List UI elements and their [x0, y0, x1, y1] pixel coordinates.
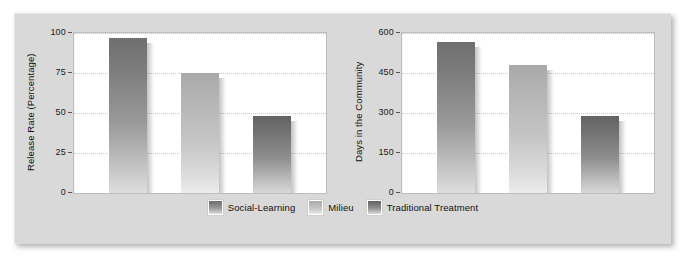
y-axis-tick-label: 450: [354, 67, 394, 77]
y-axis-tick-label: 0: [354, 187, 394, 197]
bar-3: [253, 116, 291, 193]
y-axis-tick-label: 50: [26, 107, 66, 117]
y-axis-tick-mark: [396, 112, 400, 113]
bar-1: [109, 38, 147, 193]
gridline: [74, 33, 326, 34]
y-axis-tick-label: 300: [354, 107, 394, 117]
bar-drop-shadow: [291, 121, 298, 193]
gridline: [402, 33, 654, 34]
bar-2: [509, 65, 547, 193]
y-axis-tick-label: 25: [26, 147, 66, 157]
y-axis-tick-label: 100: [26, 27, 66, 37]
bar-fill: [109, 38, 147, 193]
bar-fill: [581, 116, 619, 193]
y-axis-tick-mark: [68, 32, 72, 33]
plot-area-left: [73, 32, 327, 194]
plot-area-right: [401, 32, 655, 194]
y-axis-tick-label: 600: [354, 27, 394, 37]
y-axis-tick-mark: [68, 112, 72, 113]
bar-3: [581, 116, 619, 193]
bar-fill: [181, 73, 219, 193]
legend-item-1: Social-Learning: [208, 200, 296, 215]
bar-drop-shadow: [147, 43, 154, 193]
legend-label: Social-Learning: [228, 202, 296, 213]
legend-item-3: Traditional Treatment: [367, 200, 479, 215]
legend-swatch: [208, 200, 223, 215]
legend-swatch: [308, 200, 323, 215]
y-axis-tick-label: 0: [26, 187, 66, 197]
y-axis-tick-label: 75: [26, 67, 66, 77]
bar-2: [181, 73, 219, 193]
bar-fill: [437, 42, 475, 193]
bar-fill: [253, 116, 291, 193]
chart-legend: Social-LearningMilieuTraditional Treatme…: [15, 200, 671, 215]
legend-item-2: Milieu: [308, 200, 353, 215]
y-axis-tick-mark: [396, 32, 400, 33]
y-axis-tick-label: 150: [354, 147, 394, 157]
bar-drop-shadow: [547, 70, 554, 193]
y-axis-tick-mark: [396, 192, 400, 193]
bar-drop-shadow: [619, 121, 626, 193]
bar-drop-shadow: [219, 78, 226, 193]
y-axis-tick-mark: [68, 152, 72, 153]
bar-1: [437, 42, 475, 193]
bar-fill: [509, 65, 547, 193]
legend-swatch: [367, 200, 382, 215]
y-axis-tick-mark: [68, 192, 72, 193]
legend-label: Traditional Treatment: [387, 202, 479, 213]
y-axis-tick-mark: [396, 152, 400, 153]
legend-label: Milieu: [328, 202, 353, 213]
y-axis-tick-mark: [396, 72, 400, 73]
figure-panel: Release Rate (Percentage) 0255075100 Day…: [14, 13, 671, 244]
bar-drop-shadow: [475, 47, 482, 193]
y-axis-tick-mark: [68, 72, 72, 73]
